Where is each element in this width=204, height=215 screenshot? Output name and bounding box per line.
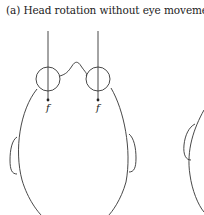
left-eye-label: f: [45, 102, 52, 113]
head-outline-right: [108, 88, 128, 215]
right-eye-label: f: [95, 102, 102, 113]
second-head-outline: [189, 110, 204, 212]
right-eye-center-dot: [97, 99, 100, 102]
nose: [60, 62, 87, 76]
head-outline: [18, 89, 42, 215]
head-diagram: f f: [0, 0, 204, 215]
right-ear: [129, 134, 136, 172]
left-ear: [10, 137, 17, 174]
left-eye-center-dot: [47, 99, 50, 102]
